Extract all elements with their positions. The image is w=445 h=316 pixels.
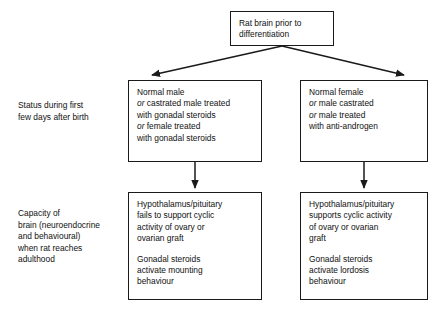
node-text-line: or castrated male treated [137,98,254,109]
node-text-rest: with gonadal steroids [137,110,216,120]
node-text-rest: castrated male treated [144,98,230,108]
node-text-line: Rat brain prior to [239,18,326,29]
node-female-condition: Normal female or male castrated or male … [300,80,428,162]
node-text-rest: female treated [144,121,200,131]
row-label-line: Status during first [18,100,89,112]
node-text-line: activate lordosis [309,265,420,276]
row-label-line: brain (neuroendocrine [18,220,100,232]
row-label-status: Status during first few days after birth [18,100,89,123]
node-text-rest: with anti-androgen [309,121,378,131]
node-text-line: differentiation [239,29,326,40]
node-text-line: Normal female [309,87,420,98]
row-label-line: and behavioural) [18,231,100,243]
node-text-line: activity of ovary or [137,222,254,233]
node-text-rest: Normal female [309,87,363,97]
row-label-line: adulthood [18,254,100,266]
node-text-line: Gonadal steroids [309,254,420,265]
node-text-line: activate mounting [137,265,254,276]
node-text-line: fails to support cyclic [137,210,254,221]
node-text-line: graft [309,233,420,244]
node-text-line: Hypothalamus/pituitary [137,199,254,210]
node-text-line: supports cyclic activity [309,210,420,221]
node-text-line: behaviour [137,276,254,287]
node-text-rest: male castrated [316,98,373,108]
node-text-line: with gonadal steroids [137,133,254,144]
node-text-rest: Normal male [137,87,184,97]
row-label-capacity: Capacity of brain (neuroendocrine and be… [18,208,100,266]
node-text-line: Normal male [137,87,254,98]
node-text-line: behaviour [309,276,420,287]
node-text-line: Hypothalamus/pituitary [309,199,420,210]
node-text-line: with anti-androgen [309,121,420,132]
connector-root-to-female [282,46,404,75]
node-female-outcome: Hypothalamus/pituitary supports cyclic a… [300,192,428,300]
node-text-rest: male treated [316,110,365,120]
paragraph-spacer [309,245,420,254]
node-text-line: or male treated [309,110,420,121]
node-text-line: with gonadal steroids [137,110,254,121]
row-label-line: when rat reaches [18,243,100,255]
node-rat-brain-prior: Rat brain prior to differentiation [230,11,334,46]
node-text-line: ovarian graft [137,233,254,244]
row-label-line: few days after birth [18,112,89,124]
node-text-line: or male castrated [309,98,420,109]
node-text-line: of ovary or ovarian [309,222,420,233]
paragraph-spacer [137,245,254,254]
row-label-line: Capacity of [18,208,100,220]
node-male-condition: Normal male or castrated male treated wi… [128,80,262,162]
node-text-line: or female treated [137,121,254,132]
node-text-rest: with gonadal steroids [137,133,216,143]
node-text-line: Gonadal steroids [137,254,254,265]
flow-chart-diagram: Rat brain prior to differentiation Statu… [0,0,445,316]
node-male-outcome: Hypothalamus/pituitary fails to support … [128,192,262,300]
connector-root-to-male [152,46,282,75]
